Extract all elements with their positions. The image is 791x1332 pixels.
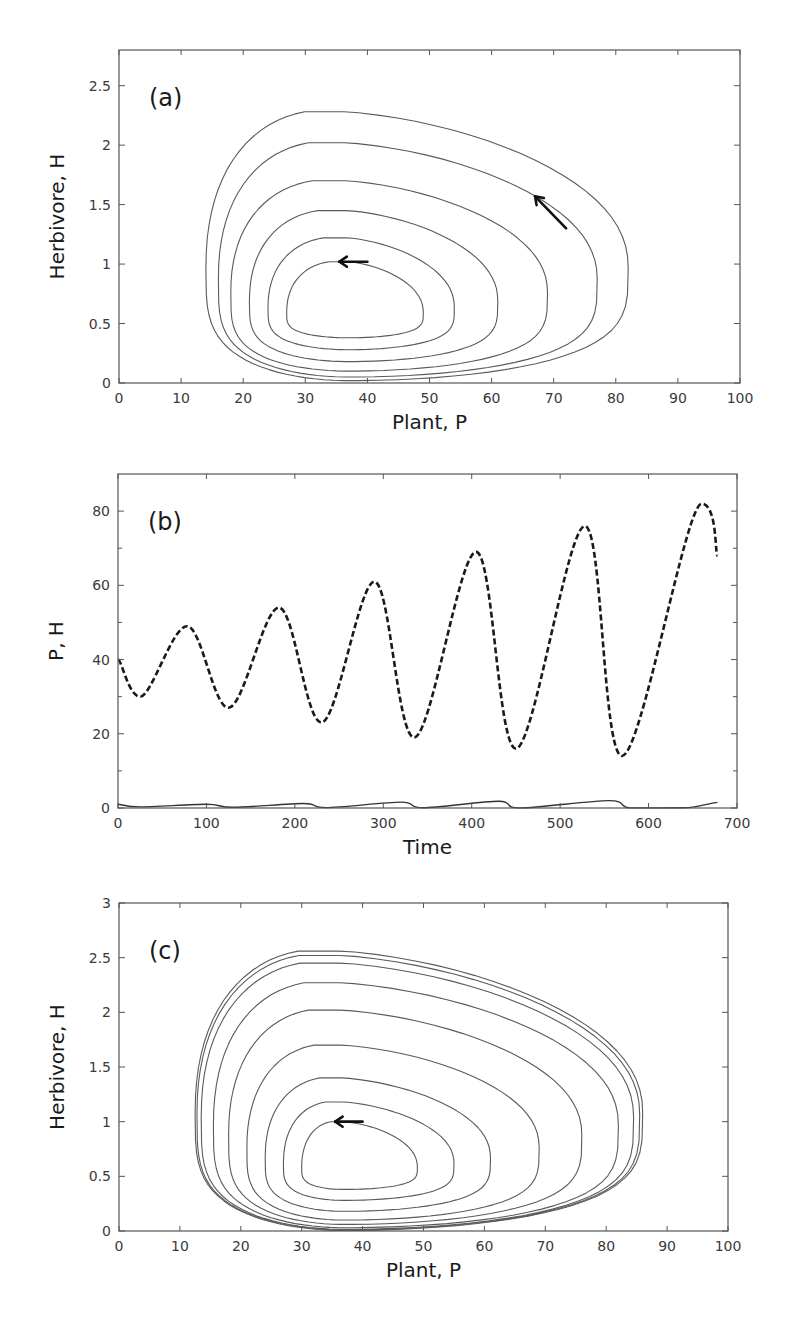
x-tick-label: 60 <box>475 1238 493 1254</box>
x-tick-label: 300 <box>370 815 397 831</box>
y-tick-label: 0 <box>102 1223 111 1239</box>
x-tick-label: 600 <box>635 815 662 831</box>
x-tick-label: 0 <box>114 815 123 831</box>
x-tick-label: 0 <box>115 1238 124 1254</box>
orbit-loop <box>249 211 497 362</box>
panel-c-x-axis: 0102030405060708090100 <box>115 903 742 1254</box>
orbit-loop <box>231 181 548 371</box>
x-tick-label: 80 <box>597 1238 615 1254</box>
panel-b-time-series: 0100200300400500600700 020406080 (b) Tim… <box>44 474 750 859</box>
x-tick-label: 20 <box>232 1238 250 1254</box>
y-tick-label: 0.5 <box>89 316 111 332</box>
orbit-loop <box>283 1102 454 1200</box>
panel-b-label: (b) <box>148 508 182 536</box>
y-tick-label: 0.5 <box>89 1168 111 1184</box>
panel-c-y-axis-label: Herbivore, H <box>45 1004 69 1130</box>
x-tick-label: 100 <box>715 1238 742 1254</box>
x-tick-label: 70 <box>536 1238 554 1254</box>
panel-a-x-axis: 0102030405060708090100 <box>115 50 754 406</box>
x-tick-label: 40 <box>358 390 376 406</box>
y-tick-label: 60 <box>92 577 110 593</box>
orbit-loop <box>197 956 640 1230</box>
orbit-loop <box>218 143 597 377</box>
panel-c-x-axis-label: Plant, P <box>386 1258 461 1282</box>
panel-b-y-axis: 020406080 <box>92 503 737 816</box>
y-tick-label: 80 <box>92 503 110 519</box>
y-tick-label: 2 <box>102 1004 111 1020</box>
y-tick-label: 20 <box>92 726 110 742</box>
x-tick-label: 50 <box>421 390 439 406</box>
x-tick-label: 100 <box>727 390 754 406</box>
orbit-loop <box>265 1078 490 1211</box>
panel-c-y-axis: 00.511.522.53 <box>89 895 728 1239</box>
y-tick-label: 0 <box>101 800 110 816</box>
panel-a-y-axis-label: Herbivore, H <box>45 154 69 280</box>
x-tick-label: 70 <box>545 390 563 406</box>
x-tick-label: 30 <box>296 390 314 406</box>
x-tick-label: 60 <box>483 390 501 406</box>
panel-b-plot-frame <box>118 474 737 808</box>
panel-c-plot-frame <box>119 903 728 1231</box>
panel-a-plot-frame <box>119 50 740 383</box>
figure-canvas: 0102030405060708090100 00.511.522.5 (a) … <box>0 0 791 1332</box>
orbit-loop <box>206 112 628 381</box>
panel-a-x-axis-label: Plant, P <box>392 410 467 434</box>
panel-c-trajectory <box>195 951 643 1230</box>
y-tick-label: 1.5 <box>89 197 111 213</box>
y-tick-label: 1 <box>102 1114 111 1130</box>
x-tick-label: 200 <box>281 815 308 831</box>
panel-a-trajectory <box>206 112 628 381</box>
y-tick-label: 2.5 <box>89 950 111 966</box>
orbit-loop <box>213 983 618 1228</box>
y-tick-label: 40 <box>92 652 110 668</box>
panel-b-series-plant <box>118 504 718 756</box>
panel-c-direction-arrows <box>335 1117 362 1127</box>
panel-c-phase-plane: 0102030405060708090100 00.511.522.53 (c)… <box>45 895 741 1282</box>
panel-a-direction-arrows <box>339 196 566 266</box>
orbit-loop <box>268 238 454 350</box>
y-tick-label: 2.5 <box>89 78 111 94</box>
x-tick-label: 700 <box>724 815 751 831</box>
x-tick-label: 20 <box>234 390 252 406</box>
panel-c-label: (c) <box>149 937 181 965</box>
x-tick-label: 10 <box>172 390 190 406</box>
panel-b-y-axis-label: P, H <box>44 621 68 661</box>
y-tick-label: 1.5 <box>89 1059 111 1075</box>
x-tick-label: 50 <box>415 1238 433 1254</box>
x-tick-label: 90 <box>658 1238 676 1254</box>
x-tick-label: 10 <box>171 1238 189 1254</box>
orbit-loop <box>287 262 424 338</box>
panel-a-label: (a) <box>149 84 182 112</box>
y-tick-label: 3 <box>102 895 111 911</box>
panel-b-x-axis: 0100200300400500600700 <box>114 474 751 831</box>
x-tick-label: 30 <box>293 1238 311 1254</box>
y-tick-label: 1 <box>102 256 111 272</box>
panel-a-phase-plane: 0102030405060708090100 00.511.522.5 (a) … <box>45 50 753 434</box>
x-tick-label: 80 <box>607 390 625 406</box>
panel-b-x-axis-label: Time <box>402 835 452 859</box>
x-tick-label: 100 <box>193 815 220 831</box>
x-tick-label: 90 <box>669 390 687 406</box>
y-tick-label: 0 <box>102 375 111 391</box>
orbit-loop <box>302 1122 418 1190</box>
x-tick-label: 500 <box>547 815 574 831</box>
panel-b-series-herbivore <box>118 801 718 808</box>
x-tick-label: 0 <box>115 390 124 406</box>
x-tick-label: 40 <box>354 1238 372 1254</box>
y-tick-label: 2 <box>102 137 111 153</box>
orbit-loop <box>247 1045 539 1220</box>
x-tick-label: 400 <box>458 815 485 831</box>
